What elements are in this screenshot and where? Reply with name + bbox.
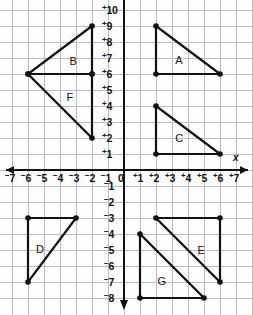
vertex-point <box>217 151 223 157</box>
triangle-label-F: F <box>66 92 73 103</box>
y-tick-label: −2 <box>104 197 114 208</box>
x-tick-label: +5 <box>197 173 207 184</box>
triangle-label-B: B <box>70 56 77 67</box>
x-tick-label: +1 <box>133 173 143 184</box>
vertex-point <box>89 71 95 77</box>
vertex-point <box>217 215 223 221</box>
vertex-point <box>25 279 31 285</box>
triangle-label-E: E <box>198 245 205 256</box>
triangle-label-D: D <box>36 244 44 255</box>
y-tick-label: +8 <box>102 37 112 48</box>
x-tick-label: +4 <box>181 173 191 184</box>
y-tick-label: +10 <box>102 5 117 16</box>
origin-label: 0 <box>118 173 124 184</box>
vertex-point <box>217 71 223 77</box>
x-axis-arrow-right <box>240 166 248 174</box>
x-tick-label: +3 <box>165 173 175 184</box>
y-tick-label: −1 <box>104 181 114 192</box>
vertex-point <box>153 23 159 29</box>
x-tick-label: −4 <box>53 173 63 184</box>
triangle-label-A: A <box>175 55 182 66</box>
y-tick-label: −7 <box>104 277 114 288</box>
vertex-point <box>153 103 159 109</box>
vertex-point <box>25 215 31 221</box>
vertex-point <box>89 23 95 29</box>
y-tick-label: −3 <box>104 213 114 224</box>
vertex-point <box>201 295 207 301</box>
vertex-point <box>153 215 159 221</box>
y-tick-label: +2 <box>102 133 112 144</box>
x-tick-label: +6 <box>213 173 223 184</box>
y-tick-label: +5 <box>102 85 112 96</box>
y-tick-label: +1 <box>102 149 112 160</box>
x-tick-label: −5 <box>37 173 47 184</box>
x-tick-label: −2 <box>85 173 95 184</box>
y-tick-label: +3 <box>102 117 112 128</box>
y-tick-label: +4 <box>102 101 112 112</box>
x-tick-label: +7 <box>229 173 239 184</box>
y-axis-arrow-down <box>120 300 128 310</box>
vertex-point <box>137 295 143 301</box>
x-tick-label: −6 <box>21 173 31 184</box>
x-tick-label: −3 <box>69 173 79 184</box>
triangle-label-C: C <box>175 133 183 144</box>
vertex-point <box>217 279 223 285</box>
triangle-label-G: G <box>158 276 167 287</box>
vertex-point <box>153 71 159 77</box>
vertex-point <box>73 215 79 221</box>
vertex-point <box>137 231 143 237</box>
grid-and-shapes <box>0 0 253 315</box>
x-tick-label: −7 <box>5 173 15 184</box>
x-axis-label: x <box>233 152 239 163</box>
vertex-point <box>25 71 31 77</box>
y-tick-label: −5 <box>104 245 114 256</box>
y-tick-label: +6 <box>102 69 112 80</box>
x-tick-label: +2 <box>149 173 159 184</box>
vertex-point <box>153 151 159 157</box>
y-tick-label: −4 <box>104 229 114 240</box>
vertex-point <box>89 135 95 141</box>
coordinate-plane: ABCDEFG−7−6−5−4−3−2−1+1+2+3+4+5+6+70+1+2… <box>0 0 253 315</box>
y-tick-label: −8 <box>104 293 114 304</box>
y-tick-label: +7 <box>102 53 112 64</box>
y-tick-label: −6 <box>104 261 114 272</box>
y-tick-label: +9 <box>102 21 112 32</box>
